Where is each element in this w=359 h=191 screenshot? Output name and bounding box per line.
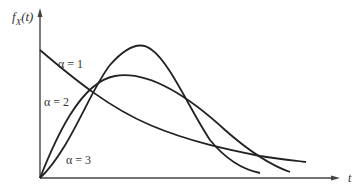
y-axis-label-arg: (t) [21,9,33,24]
label-alpha-2: α = 2 [44,95,69,109]
gamma-pdf-chart: fX(t) t α = 1 α = 2 α = 3 [0,0,359,191]
label-alpha-3: α = 3 [66,153,91,167]
y-axis-label: fX(t) [12,9,33,27]
label-alpha-1: α = 1 [58,57,83,71]
y-axis-arrow-icon [38,8,43,17]
x-axis-arrow-icon [331,176,340,181]
x-axis-label: t [348,171,352,185]
